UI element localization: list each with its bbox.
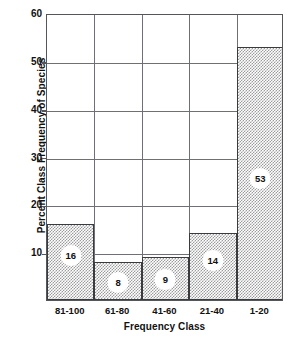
y-axis-title: Percent Class Frequency of Species <box>36 36 47 256</box>
x-tick-label-21-40: 21-40 <box>188 305 236 316</box>
y-tick-label-30: 30 <box>12 153 42 163</box>
y-tick-label-50: 50 <box>12 57 42 67</box>
bar-value-61-80: 8 <box>108 272 129 293</box>
bar-value-81-100: 16 <box>60 245 81 266</box>
y-tick-label-40: 40 <box>12 105 42 115</box>
bar-chart: Percent Class Frequency of Species 60 50… <box>0 0 291 339</box>
y-tick-label-10: 10 <box>12 248 42 258</box>
bar-value-21-40: 14 <box>202 250 223 271</box>
y-tick-label-20: 20 <box>12 200 42 210</box>
bar-1-20: 53 <box>237 47 283 301</box>
x-axis-title: Frequency Class <box>46 321 283 332</box>
bar-61-80: 8 <box>94 262 141 300</box>
bar-21-40: 14 <box>189 233 236 300</box>
y-tick-label-60: 60 <box>12 9 42 19</box>
bar-value-1-20: 53 <box>250 168 271 189</box>
gridline-category-1 <box>94 15 95 300</box>
bar-41-60: 9 <box>142 257 189 300</box>
bar-81-100: 16 <box>47 224 94 301</box>
bar-value-41-60: 9 <box>155 269 176 290</box>
x-tick-label-61-80: 61-80 <box>93 305 141 316</box>
plot-area: 16 8 9 14 53 <box>46 14 283 301</box>
x-tick-label-41-60: 41-60 <box>141 305 189 316</box>
x-tick-label-1-20: 1-20 <box>235 305 283 316</box>
x-tick-label-81-100: 81-100 <box>46 305 94 316</box>
